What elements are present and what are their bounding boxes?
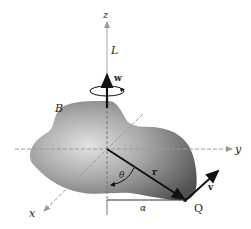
diagram-canvas: z y x L w B r v Q θ α [0,0,251,229]
angle-label: θ [119,170,125,180]
body-label: B [54,102,63,115]
angular-momentum-label: L [110,44,118,57]
point-q-label: Q [194,202,203,215]
y-axis-label: y [234,143,242,156]
velocity-vector-label: v [207,182,214,192]
rigid-body-shape [30,101,197,200]
angular-velocity-label: w [113,73,122,83]
x-axis-label: x [29,207,36,220]
position-vector-label: r [152,166,158,177]
distance-label: α [140,203,146,213]
z-axis-label: z [102,9,109,20]
rigid-body-diagram: z y x L w B r v Q θ α [0,0,251,229]
